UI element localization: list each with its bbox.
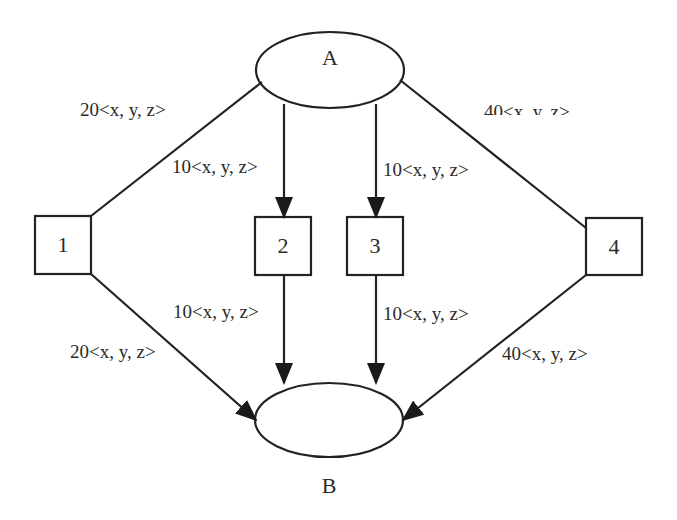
node-b-ellipse: [255, 383, 403, 457]
box-1-label: 1: [35, 234, 91, 256]
diagram-canvas: [0, 0, 677, 520]
box-4-label: 4: [586, 236, 642, 258]
edge-label-a-4: 40<x, y, z>: [484, 102, 570, 115]
box-2-label: 2: [255, 235, 311, 257]
edge-label-a-3: 10<x, y, z>: [383, 160, 469, 180]
edge-label-3-b: 10<x, y, z>: [383, 304, 469, 324]
node-b-label: B: [315, 475, 343, 497]
node-a-ellipse: [256, 32, 404, 108]
edge-label-2-b: 10<x, y, z>: [173, 302, 259, 322]
edge-label-1-b: 20<x, y, z>: [70, 342, 156, 362]
node-a-label: A: [316, 47, 344, 69]
edge-label-a-2: 10<x, y, z>: [172, 157, 258, 177]
edge-label-a-1: 20<x, y, z>: [80, 100, 166, 120]
edge-label-4-b: 40<x, y, z>: [502, 344, 588, 364]
box-3-label: 3: [347, 235, 403, 257]
